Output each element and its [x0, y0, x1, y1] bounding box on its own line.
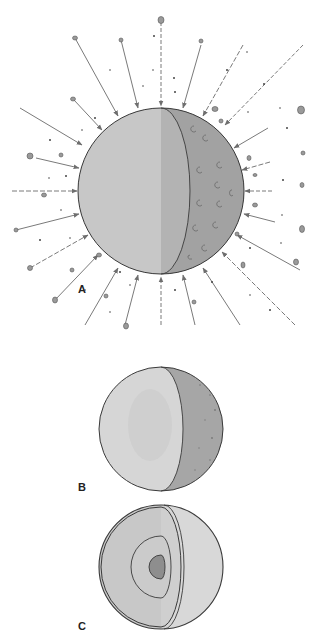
sphere-b [99, 367, 230, 491]
panel-label-b: B [78, 481, 86, 493]
diagram-canvas [0, 0, 319, 644]
panel-label-c: C [78, 620, 86, 632]
panel-a [12, 17, 305, 330]
panel-label-a: A [78, 283, 86, 295]
sphere-c [99, 505, 230, 629]
sphere-a [78, 100, 251, 290]
